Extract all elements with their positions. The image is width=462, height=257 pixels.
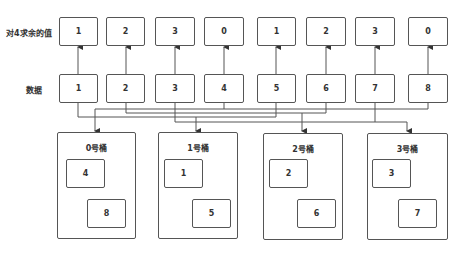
bucket-3: 3号桶 3 7 [367,133,448,240]
bucket-title: 2号桶 [264,143,342,154]
data-row-label: 数据 [26,84,42,95]
bucket-item: 8 [87,199,126,228]
remainder-box: 2 [106,17,145,46]
remainder-box: 3 [155,17,195,46]
bucket-item: 1 [164,159,203,188]
data-box: 4 [204,74,244,103]
bucket-item: 2 [269,159,308,188]
data-box: 8 [408,74,448,103]
bucket-item: 3 [372,159,411,188]
data-box: 1 [59,74,98,103]
data-box: 6 [306,74,346,103]
bucket-title: 0号桶 [58,142,135,153]
data-box: 3 [155,74,195,103]
remainder-box: 1 [59,17,98,46]
remainder-box: 2 [306,17,346,46]
data-box: 2 [106,74,145,103]
bucket-item: 5 [192,199,231,228]
remainder-box: 3 [355,17,395,46]
remainder-box: 0 [204,17,244,46]
bucket-item: 4 [66,159,105,188]
bucket-1: 1号桶 1 5 [158,132,238,239]
bucket-title: 1号桶 [159,142,237,153]
bucket-0: 0号桶 4 8 [57,132,136,239]
remainder-box: 0 [408,17,448,46]
bucket-2: 2号桶 2 6 [263,133,343,240]
bucket-item: 6 [297,199,336,228]
remainder-box: 1 [257,17,296,46]
remainder-row-label: 对4求余的值 [6,27,52,38]
data-box: 5 [257,74,296,103]
data-box: 7 [355,74,395,103]
bucket-item: 7 [398,199,437,228]
bucket-title: 3号桶 [368,143,447,154]
